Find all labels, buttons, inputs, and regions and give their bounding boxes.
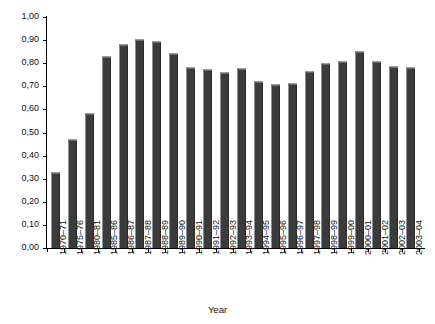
bar[interactable]	[152, 41, 161, 248]
bar[interactable]	[169, 53, 178, 248]
x-tick-label: 1995–96	[279, 220, 288, 255]
bar-slot	[267, 17, 284, 248]
bar-slot	[301, 17, 318, 248]
plot-area	[47, 17, 419, 248]
y-tick-label: 0,70	[21, 80, 39, 90]
y-tick-label: 0,20	[21, 196, 39, 206]
bar[interactable]	[119, 44, 128, 248]
x-tick-label: 1970–71	[59, 220, 68, 255]
bar[interactable]	[355, 51, 364, 249]
bar-slot	[98, 17, 115, 248]
bar-chart: 0,000,100,200,300,400,500,600,700,800,90…	[0, 0, 435, 324]
x-tick-label: 1993–94	[245, 220, 254, 255]
x-tick-label: 1986–87	[127, 220, 136, 255]
x-tick-label: 1988–89	[161, 220, 170, 255]
bar-slot	[165, 17, 182, 248]
bar-slot	[250, 17, 267, 248]
y-tick-label: 0,90	[21, 34, 39, 44]
bar-slot	[81, 17, 98, 248]
bar-slot	[233, 17, 250, 248]
x-tick-label: 1997–98	[313, 220, 322, 255]
y-tick-label: 0,10	[21, 219, 39, 229]
x-tick-label: 1991–92	[212, 220, 221, 255]
x-tick-label: 2003–04	[415, 220, 424, 255]
bar-slot	[368, 17, 385, 248]
x-tick-label: 1990–91	[195, 220, 204, 255]
y-tick-label: 0,50	[21, 127, 39, 137]
bar-slot	[334, 17, 351, 248]
x-tick-mark	[47, 248, 48, 252]
y-tick-label: 0,00	[21, 242, 39, 252]
x-tick-label: 1992–93	[229, 220, 238, 255]
x-tick-label: 1980–81	[93, 220, 102, 255]
bar-slot	[318, 17, 335, 248]
bar-slot	[182, 17, 199, 248]
y-tick-label: 0,80	[21, 57, 39, 67]
bar-slot	[115, 17, 132, 248]
y-tick-label: 0,30	[21, 173, 39, 183]
bar-slot	[148, 17, 165, 248]
x-tick-label: 1999–00	[347, 220, 356, 255]
y-tick-label: 0,40	[21, 150, 39, 160]
bar-slot	[284, 17, 301, 248]
x-tick-label: 1987–88	[144, 220, 153, 255]
x-tick-label: 1975–76	[76, 220, 85, 255]
x-tick-label: 2001–02	[381, 220, 390, 255]
bar-slot	[351, 17, 368, 248]
bar-slot	[132, 17, 149, 248]
bar-slot	[47, 17, 64, 248]
x-axis-title: Year	[0, 304, 435, 315]
x-tick-label: 1994–95	[262, 220, 271, 255]
x-tick-label: 1985–86	[110, 220, 119, 255]
x-tick-label: 1996–97	[296, 220, 305, 255]
y-tick-label: 0,60	[21, 103, 39, 113]
bar-slot	[402, 17, 419, 248]
x-tick-label: 2000–01	[364, 220, 373, 255]
x-tick-label: 1998–99	[330, 220, 339, 255]
bar-slot	[385, 17, 402, 248]
bar-slot	[64, 17, 81, 248]
y-tick-label: 1,00	[21, 11, 39, 21]
bar-slot	[199, 17, 216, 248]
bar[interactable]	[135, 39, 144, 248]
x-tick-label: 1989–90	[178, 220, 187, 255]
x-tick-label: 2002–03	[398, 220, 407, 255]
bar-slot	[216, 17, 233, 248]
